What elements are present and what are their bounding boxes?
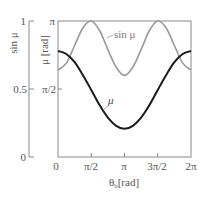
left-axis-title: sin μ <box>7 32 19 54</box>
mu-tick-label: π <box>49 15 55 27</box>
mu-axis-title: μ [rad] <box>38 35 50 65</box>
left-tick-label: 0 <box>21 151 27 163</box>
x-tick-label: 2π <box>185 160 197 172</box>
x-axis-title: θb[rad] <box>109 176 139 190</box>
left-tick-label: 0.5 <box>13 83 27 95</box>
left-tick-label: 1 <box>21 15 27 27</box>
mu-label: μ <box>107 94 114 106</box>
mu-tick-label: π/2 <box>42 83 56 95</box>
x-tick-label: π/2 <box>84 160 98 172</box>
x-tick-label: 0 <box>53 160 59 172</box>
x-tick-label: π <box>121 160 127 172</box>
plot-frame <box>58 21 191 157</box>
x-tick-label: 3π/2 <box>147 160 167 172</box>
left-axis: 1 0.5 0 sin μ <box>7 15 34 163</box>
x-axis: 0 π/2 π 3π/2 2π θb[rad] <box>53 153 197 190</box>
sin-mu-label: sin μ <box>114 28 136 40</box>
mu-annotation: μ <box>103 94 114 110</box>
sin-mu-annotation: sin μ <box>107 28 136 40</box>
chart: 1 0.5 0 sin μ π π/2 μ [rad] 0 π/2 π 3π/2… <box>0 0 208 199</box>
mu-curve <box>58 51 191 129</box>
